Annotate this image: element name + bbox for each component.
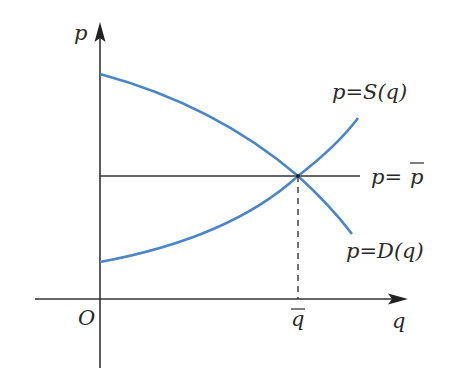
price-line-label-prefix: p= [371,165,402,189]
x-axis-label: q [392,309,405,333]
demand-curve [100,74,352,234]
q-bar-label: q [291,307,304,331]
price-line-label: p= p [371,163,424,189]
x-axis [35,294,408,305]
equilibrium-point [296,174,300,178]
demand-curve-label: p=D(q) [346,239,424,263]
q-bar-label-group: q [291,307,305,331]
price-line-label-p-bar: p [410,165,423,189]
supply-demand-diagram: p q O p=S(q) p=D(q) p= p q [0,0,451,392]
supply-curve-label: p=S(q) [332,80,407,104]
y-axis-label: p [74,21,87,45]
origin-label: O [78,306,95,330]
supply-curve [100,118,358,262]
